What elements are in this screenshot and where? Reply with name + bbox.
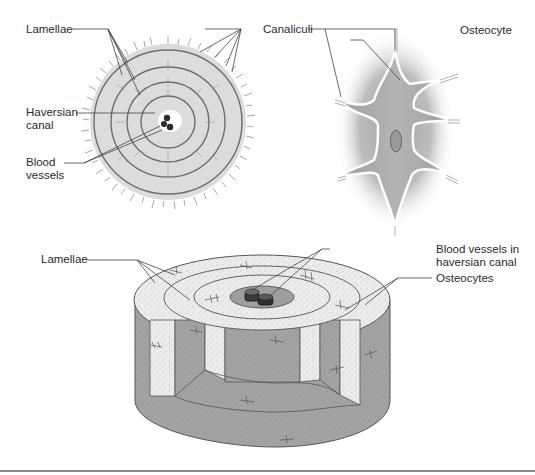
label-blood-vessels-haversian-line1: Blood vessels in <box>436 243 519 256</box>
label-lamellae-top: Lamellae <box>26 23 73 36</box>
label-blood-vessels-haversian-line2: haversian canal <box>436 256 517 269</box>
label-haversian-canal-line2: canal <box>26 119 54 132</box>
label-haversian-canal-line1: Haversian <box>26 106 78 119</box>
label-canaliculi: Canaliculi <box>263 23 313 36</box>
label-osteocyte: Osteocyte <box>460 24 512 37</box>
label-blood-vessels-line2: vessels <box>26 169 64 182</box>
label-osteocytes: Osteocytes <box>436 272 494 285</box>
osteon-cross-section <box>81 36 255 209</box>
label-lamellae-bottom: Lamellae <box>41 253 88 266</box>
osteocyte-detail <box>335 28 460 236</box>
osteocyte-nucleus <box>391 130 402 152</box>
label-blood-vessels-line1: Blood <box>26 156 55 169</box>
bottom-divider-rule <box>0 470 535 472</box>
diagram-canvas <box>0 0 535 475</box>
